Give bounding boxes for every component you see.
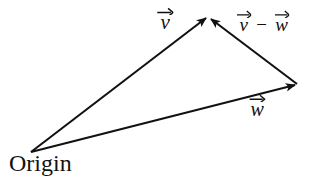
vector-v-line (31, 18, 206, 152)
minus-operator: − (253, 15, 270, 34)
label-origin: Origin (9, 151, 72, 176)
label-vector-v-minus-w: v − w (239, 15, 288, 34)
label-vector-w: w (250, 99, 264, 119)
vector-v-letter-2: v (240, 15, 248, 34)
vector-w-symbol: w (250, 99, 264, 119)
vector-w-letter-2: w (275, 15, 288, 34)
vector-v-letter: v (161, 12, 170, 33)
label-vector-v: v (160, 12, 170, 33)
vector-v-symbol-2: v (239, 15, 248, 34)
vector-v-symbol: v (160, 12, 170, 33)
vector-diagram: v v − w w Origin (0, 0, 314, 179)
vector-w-symbol-2: w (275, 15, 289, 34)
vector-w-letter: w (251, 99, 264, 119)
